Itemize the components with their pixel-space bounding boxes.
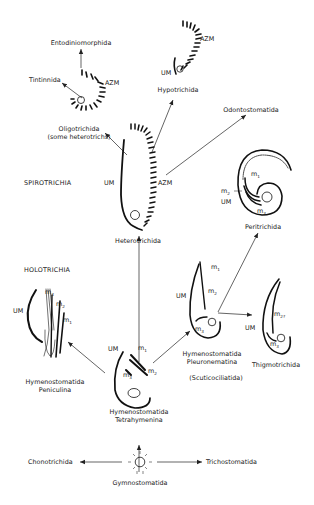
label-azm-hypotrichida: AZM xyxy=(200,35,214,43)
label-m1-peritrichida: m1 xyxy=(251,170,260,179)
label-m1-pleuronematina: m1 xyxy=(211,263,220,272)
label-scuticociliatida: (Scuticociliatida) xyxy=(189,374,242,382)
label-tetrahymenina-line2: Tetrahymenina xyxy=(114,416,163,424)
tetrahymenina-figure xyxy=(115,352,150,408)
label-trichostomatida: Trichostomatida xyxy=(205,458,257,466)
label-tetrahymenina-line1: Hymenostomatida xyxy=(110,408,169,416)
labels: Entodiniomorphida Tintinnida AZM Oligotr… xyxy=(13,35,300,487)
label-m2-pleuronematina: m2 xyxy=(208,287,217,296)
oligotrichida-figure xyxy=(71,70,105,110)
label-heterotrichida: Heterotrichida xyxy=(115,237,161,245)
label-m1-tetrahymenina: m1 xyxy=(138,344,147,353)
label-gymnostomatida: Gymnostomatida xyxy=(112,479,167,487)
label-m3-peritrichida: m3 xyxy=(257,207,266,216)
label-chonotrichida: Chonotrichida xyxy=(28,458,73,466)
arrow-to-pleuronematina xyxy=(153,331,190,363)
arrow-to-thigmotrichida xyxy=(218,313,252,315)
label-um-pleuronematina: UM xyxy=(176,292,186,300)
label-entodiniomorphida: Entodiniomorphida xyxy=(51,39,112,47)
label-peniculina-line2: Peniculina xyxy=(39,386,72,394)
label-um-tetrahymenina: UM xyxy=(108,345,118,353)
label-m1-peniculina: m1 xyxy=(63,316,72,325)
label-thigmotrichida: Thigmotrichida xyxy=(251,361,300,369)
label-m3-peniculina: m3 xyxy=(45,288,54,297)
label-oligotrichida-note: (some heterotrichs) xyxy=(47,133,110,141)
label-tintinnida: Tintinnida xyxy=(28,76,61,84)
label-m3-pleuronematina: m3 xyxy=(195,325,204,334)
label-pleuronematina-line1: Hymenostomatida xyxy=(183,350,242,358)
label-um-peritrichida: UM xyxy=(221,198,231,206)
arrow-to-hypotrichida xyxy=(152,100,173,152)
arrow-to-tintinnida xyxy=(62,83,82,98)
label-m2q-thigmotrichida: m2? xyxy=(274,310,285,319)
label-m3-tetrahymenina: m3 xyxy=(123,371,132,380)
label-um-hypotrichida: UM xyxy=(161,69,171,77)
label-oligotrichida: Oligotrichida xyxy=(59,125,100,133)
label-m2-peniculina: m2 xyxy=(56,300,65,309)
gymnostomatida-figure xyxy=(128,451,152,474)
label-um-peniculina: UM xyxy=(13,307,23,315)
label-peniculina-line1: Hymenostomatida xyxy=(26,378,85,386)
label-odontostomatida: Odontostomatida xyxy=(223,106,279,114)
group-spirotrichia: SPIROTRICHIA xyxy=(24,179,72,187)
label-um-thigmotrichida: UM xyxy=(245,324,255,332)
label-hypotrichida: Hypotrichida xyxy=(158,86,199,94)
arrow-to-odontostomatida xyxy=(166,115,246,175)
label-m3-thigmotrichida: m3 xyxy=(270,340,279,349)
label-m2-peritrichida: m2 xyxy=(221,187,230,196)
heterotrichida-figure xyxy=(121,124,156,230)
peritrichida-figure xyxy=(234,150,291,215)
label-azm-heterotrichida: AZM xyxy=(158,179,172,187)
label-azm-oligotrichida: AZM xyxy=(105,79,119,87)
arrow-to-peniculina xyxy=(68,342,105,373)
label-m2-tetrahymenina: m2 xyxy=(148,367,157,376)
arrow-to-peritrichida xyxy=(218,233,258,312)
label-um-heterotrichida: UM xyxy=(104,179,114,187)
label-peritrichida: Peritrichida xyxy=(245,223,281,231)
ciliate-evolution-diagram: Entodiniomorphida Tintinnida AZM Oligotr… xyxy=(0,0,314,505)
hypotrichida-figure xyxy=(174,21,201,74)
group-holotrichia: HOLOTRICHIA xyxy=(24,266,71,274)
label-pleuronematina-line2: Pleuronematina xyxy=(187,358,237,366)
